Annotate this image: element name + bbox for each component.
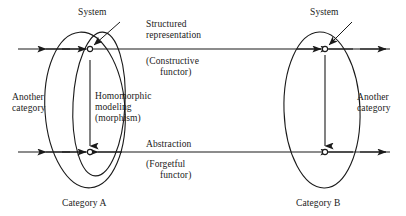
object-a-top-node (87, 46, 92, 51)
forgetful-functor-label-line2: functor) (160, 170, 191, 181)
category-b-label: Category B (296, 198, 341, 209)
another-category-left-label-line1: Another (12, 92, 44, 103)
diagram-canvas: System Structured representation (Constr… (0, 0, 406, 216)
forgetful-functor-label-line1: (Forgetful (146, 159, 185, 170)
structured-representation-label-line1: Structured (146, 19, 187, 30)
category-b-ellipse (281, 31, 362, 190)
system-right-leader-line (329, 22, 352, 45)
object-b-bottom-node (322, 149, 327, 154)
homomorphic-modeling-label-line1: Homomorphic (95, 91, 152, 102)
system-right-label: System (310, 7, 339, 18)
constructive-functor-label-line2: functor) (160, 67, 191, 78)
homomorphic-modeling-label-line2: modeling (95, 102, 132, 113)
functor-diagram-svg (0, 0, 406, 216)
category-a-label: Category A (62, 198, 107, 209)
system-left-label: System (78, 7, 107, 18)
homomorphic-modeling-label-line3: (morphism) (95, 113, 141, 124)
category-b-group (281, 31, 362, 190)
abstraction-label: Abstraction (146, 139, 191, 150)
object-b-top-node (322, 46, 327, 51)
object-a-bottom-node (87, 149, 92, 154)
another-category-right-label-line1: Another (357, 92, 389, 103)
another-category-left-label-line2: category (12, 103, 46, 114)
structured-representation-label-line2: representation (146, 30, 201, 41)
constructive-functor-label-line1: (Constructive (146, 56, 199, 67)
another-category-right-label-line2: category (357, 103, 391, 114)
